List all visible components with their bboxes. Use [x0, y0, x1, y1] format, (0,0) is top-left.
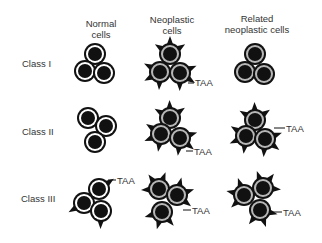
cell-icon — [235, 125, 257, 147]
nucleus-icon — [256, 181, 270, 195]
taa-label: TAA — [117, 175, 135, 186]
cell-icon — [90, 200, 112, 222]
cell-icon — [233, 184, 255, 206]
nucleus-icon — [155, 205, 169, 219]
cell-icon — [169, 127, 191, 149]
nucleus-icon — [248, 113, 262, 127]
cell-icon — [234, 61, 256, 83]
cell-group-class-iii-neoplastic: TAA — [141, 172, 210, 229]
cell-icon — [169, 62, 191, 84]
nucleus-icon — [238, 65, 252, 79]
nucleus-icon — [78, 64, 92, 78]
cell-icon — [74, 60, 96, 82]
cell-icon — [93, 62, 115, 84]
cell-diagram: TAATAATAATAATAATAA — [0, 0, 322, 243]
cell-icon — [249, 199, 271, 221]
nucleus-icon — [153, 65, 167, 79]
nucleus-icon — [152, 182, 166, 196]
nucleus-icon — [154, 127, 168, 141]
cell-group-class-i-normal — [74, 43, 115, 84]
cell-icon — [253, 63, 275, 85]
nucleus-icon — [163, 47, 177, 61]
nucleus-icon — [77, 196, 91, 210]
nucleus-icon — [97, 66, 111, 80]
cell-group-class-i-neoplastic: TAA — [144, 36, 213, 91]
nucleus-icon — [258, 132, 272, 146]
cell-group-class-ii-related: TAA — [230, 102, 305, 157]
taa-label: TAA — [286, 123, 304, 134]
nucleus-icon — [81, 111, 95, 125]
cell-group-class-ii-normal — [77, 107, 117, 153]
nucleus-icon — [88, 135, 102, 149]
cell-group-class-iii-normal: TAA — [69, 175, 136, 229]
nucleus-icon — [173, 66, 187, 80]
cell-group-class-i-related — [234, 43, 275, 85]
nucleus-icon — [237, 188, 251, 202]
cell-icon — [149, 61, 171, 83]
taa-label: TAA — [194, 146, 212, 157]
nucleus-icon — [257, 67, 271, 81]
cell-icon — [166, 184, 188, 206]
nucleus-icon — [170, 188, 184, 202]
nucleus-icon — [248, 47, 262, 61]
nucleus-icon — [239, 129, 253, 143]
cell-group-class-ii-neoplastic: TAA — [144, 100, 212, 157]
taa-label: TAA — [192, 205, 210, 216]
nucleus-icon — [163, 111, 177, 125]
cell-icon — [150, 123, 172, 145]
cell-icon — [84, 131, 106, 153]
nucleus-icon — [173, 131, 187, 145]
cell-icon — [252, 177, 274, 199]
nucleus-icon — [94, 204, 108, 218]
nucleus-icon — [92, 182, 106, 196]
cell-icon — [151, 201, 173, 223]
nucleus-icon — [88, 47, 102, 61]
nucleus-icon — [99, 119, 113, 133]
taa-label: TAA — [195, 77, 213, 88]
taa-label: TAA — [283, 207, 301, 218]
cell-icon — [254, 128, 276, 150]
cell-group-class-iii-related: TAA — [226, 171, 301, 227]
nucleus-icon — [253, 203, 267, 217]
